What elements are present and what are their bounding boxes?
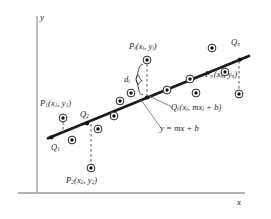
data-point-pi [143,56,151,64]
data-point-q2 [85,121,89,125]
data-point-12 [186,75,194,83]
data-point-7 [110,112,118,120]
data-point-p2 [87,164,95,172]
least-squares-diagram: y x P1(x1, y1) Q1 Q2 P2(x2, y2) Pi(xi, y… [0,0,271,219]
data-point-10 [127,89,135,97]
data-point-3 [68,136,76,144]
data-point-qn [238,57,242,61]
data-point-qi [145,95,149,99]
data-point-p1 [59,114,67,122]
leader-line-qi [149,96,172,107]
line-equation-label: y = mx + b [160,124,199,133]
data-point-6 [94,125,102,133]
data-point-pn [235,90,243,98]
point-label-qn: Qn [231,38,240,48]
data-point-q1 [49,135,53,139]
leader-line-equation [141,100,161,128]
brace-di [136,65,143,95]
data-point-11 [163,86,171,94]
point-label-q1: Q1 [51,143,60,153]
diagram-canvas [0,0,271,219]
residual-label-di: di [124,75,130,85]
point-label-pi: Pi(xi, yi) [129,42,157,52]
x-axis-label: x [237,198,241,207]
data-point-8 [116,97,124,105]
point-label-qi: Qi (xi, mxi + b) [171,103,221,113]
point-label-pn: Pn (xn, yn) [205,70,237,80]
data-point-13 [192,89,200,97]
point-label-q2: Q2 [80,110,89,120]
point-label-p2: P2(x2, y2) [66,176,97,186]
data-point-14 [208,44,216,52]
y-axis-label: y [40,13,44,22]
point-label-p1: P1(x1, y1) [40,99,71,109]
